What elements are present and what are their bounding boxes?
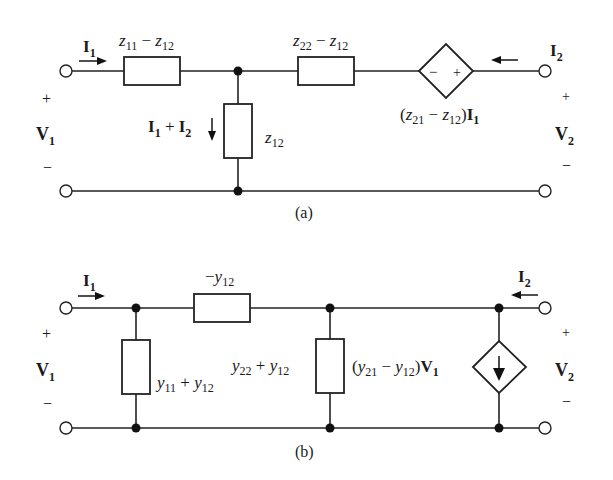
z22-minus-z12-label: z22 − z12 bbox=[292, 31, 348, 53]
dependent-voltage-source: − + bbox=[419, 44, 473, 98]
junction-node bbox=[132, 424, 141, 433]
dependent-source-label: (z21 − z12)I1 bbox=[400, 105, 479, 127]
junction-node bbox=[495, 424, 504, 433]
y11-plus-y12-label: y11 + y12 bbox=[155, 373, 214, 395]
dependent-source-label: (y21 − y12)V1 bbox=[352, 357, 439, 379]
port2-current-label: I2 bbox=[550, 41, 563, 64]
impedance-z12 bbox=[224, 104, 252, 158]
dependent-current-source bbox=[473, 341, 526, 393]
port2-bottom-terminal bbox=[539, 185, 551, 197]
junction-node bbox=[326, 424, 335, 433]
port1-minus-sign: − bbox=[43, 159, 52, 176]
junction-node bbox=[326, 304, 335, 313]
port2-plus-sign: + bbox=[562, 89, 570, 104]
arrow-left-icon bbox=[511, 291, 538, 299]
port1-top-terminal bbox=[60, 302, 72, 314]
svg-text:+: + bbox=[453, 65, 461, 80]
port1-current-label: I1 bbox=[83, 37, 96, 60]
impedance-z22-minus-z12 bbox=[298, 57, 354, 85]
port2-current-label: I2 bbox=[518, 267, 531, 290]
port2-bottom-terminal bbox=[539, 422, 551, 434]
port2-voltage-label: V2 bbox=[555, 124, 574, 148]
port1-voltage-label: V1 bbox=[36, 124, 55, 148]
junction-node-top bbox=[234, 67, 243, 76]
arrow-left-icon bbox=[491, 56, 518, 64]
circuit-a-wires bbox=[71, 71, 540, 191]
z12-label: z12 bbox=[264, 128, 284, 150]
arrow-down-icon bbox=[208, 118, 216, 141]
impedance-z11-minus-z12 bbox=[124, 57, 180, 85]
y22-plus-y12-label: y22 + y12 bbox=[230, 356, 289, 378]
circuit-b: I1 −y12 y11 + y12 y22 + y12 (y21 − y12)V… bbox=[36, 267, 574, 461]
port2-top-terminal bbox=[539, 65, 551, 77]
admittance-minus-y12 bbox=[194, 294, 250, 322]
i1-plus-i2-label: I1 + I2 bbox=[148, 117, 191, 140]
junction-node bbox=[495, 304, 504, 313]
minus-y12-label: −y12 bbox=[205, 267, 234, 289]
port1-bottom-terminal bbox=[60, 185, 72, 197]
port1-minus-sign: − bbox=[43, 395, 52, 412]
junction-node bbox=[132, 304, 141, 313]
junction-node-bottom bbox=[234, 187, 243, 196]
port2-voltage-label: V2 bbox=[555, 360, 574, 384]
port2-top-terminal bbox=[539, 302, 551, 314]
port2-minus-sign: − bbox=[562, 393, 571, 410]
port1-bottom-terminal bbox=[60, 422, 72, 434]
admittance-y22-plus-y12 bbox=[316, 339, 344, 393]
two-port-equivalent-circuits-figure: − + I1 z11 − z12 z22 − z12 z12 I1 + I2 (… bbox=[0, 0, 613, 480]
port1-current-label: I1 bbox=[83, 271, 96, 294]
port2-plus-sign: + bbox=[562, 325, 570, 340]
caption-a: (a) bbox=[295, 204, 313, 222]
port1-voltage-label: V1 bbox=[36, 360, 55, 384]
z11-minus-z12-label: z11 − z12 bbox=[118, 31, 174, 53]
svg-text:−: − bbox=[429, 64, 437, 80]
port1-top-terminal bbox=[60, 65, 72, 77]
port1-plus-sign: + bbox=[42, 325, 51, 342]
port1-plus-sign: + bbox=[42, 90, 51, 107]
caption-b: (b) bbox=[295, 443, 314, 461]
admittance-y11-plus-y12 bbox=[122, 340, 150, 394]
circuit-a: − + I1 z11 − z12 z22 − z12 z12 I1 + I2 (… bbox=[36, 31, 574, 222]
port2-minus-sign: − bbox=[562, 157, 571, 174]
